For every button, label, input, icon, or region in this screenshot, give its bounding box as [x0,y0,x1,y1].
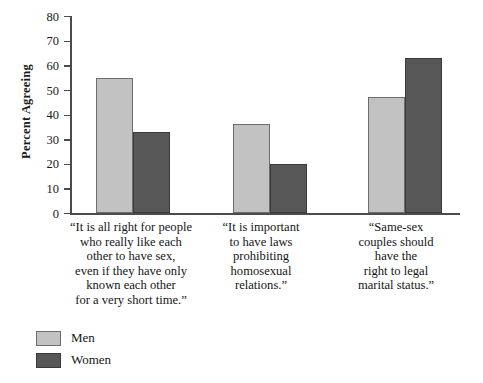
category-label-line: have the [326,249,466,264]
y-tick-label-50: 50 [47,83,60,98]
category-label-line: other to have sex, [56,249,206,264]
y-tick-10: 10 [64,188,70,189]
x-axis-line [70,213,460,215]
y-tick-label-10: 10 [47,182,60,197]
legend: Men Women [36,327,111,371]
category-label-line: even if they have only [56,264,206,279]
legend-item-women: Women [36,349,111,371]
category-label-line: right to legal [326,264,466,279]
category-label-line: relations.” [196,278,326,293]
y-tick-label-80: 80 [47,9,60,24]
bar-women-group-1 [133,132,170,213]
category-label-line: to have laws [196,235,326,250]
bar-men-group-2 [233,124,270,213]
y-tick-40: 40 [64,115,70,116]
category-label-1: “It is all right for peoplewho really li… [56,220,206,308]
category-label-line: “It is all right for people [56,220,206,235]
y-tick-50: 50 [64,90,70,91]
y-tick-label-0: 0 [53,206,59,221]
y-tick-label-60: 60 [47,58,60,73]
legend-label-women: Women [71,352,111,368]
category-label-line: couples should [326,235,466,250]
legend-item-men: Men [36,327,111,349]
bar-men-group-3 [368,97,405,213]
y-tick-30: 30 [64,139,70,140]
legend-label-men: Men [71,330,95,346]
y-tick-20: 20 [64,164,70,165]
bar-women-group-2 [270,164,307,213]
y-tick-60: 60 [64,65,70,66]
category-label-line: for a very short time.” [56,293,206,308]
category-label-3: “Same-sexcouples shouldhave theright to … [326,220,466,293]
bar-men-group-1 [96,78,133,213]
category-label-line: homosexual [196,264,326,279]
legend-swatch-men [36,331,61,346]
category-label-line: known each other [56,278,206,293]
bar-women-group-3 [405,58,442,213]
plot-area: 80706050403020100 [70,16,460,214]
y-tick-label-30: 30 [47,132,60,147]
category-label-line: “Same-sex [326,220,466,235]
y-tick-70: 70 [64,41,70,42]
y-axis-line [70,16,72,214]
category-label-line: who really like each [56,235,206,250]
y-tick-0: 0 [64,213,70,214]
y-axis-title: Percent Agreeing [19,42,34,182]
category-label-line: marital status.” [326,278,466,293]
y-tick-80: 80 [64,16,70,17]
bar-chart: Percent Agreeing 80706050403020100 “It i… [0,0,483,383]
y-tick-label-70: 70 [47,34,60,49]
y-tick-label-40: 40 [47,108,60,123]
legend-swatch-women [36,353,61,368]
category-label-line: “It is important [196,220,326,235]
y-tick-label-20: 20 [47,157,60,172]
category-label-2: “It is importantto have lawsprohibitingh… [196,220,326,293]
category-label-line: prohibiting [196,249,326,264]
